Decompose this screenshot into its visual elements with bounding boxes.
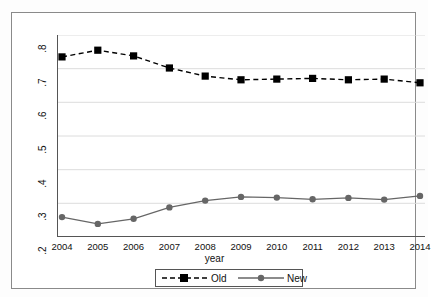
legend-item-new[interactable]: New [238,270,307,286]
y-tick-label: .6 [37,101,48,131]
data-point-old [381,76,388,83]
legend-swatch-old-icon [162,271,208,285]
y-tick-label: .3 [37,202,48,232]
data-point-old [345,76,352,83]
data-point-new [202,197,208,203]
plot-canvas [57,35,425,237]
data-point-old [166,64,173,71]
data-point-new [95,221,101,227]
data-point-new [166,204,172,210]
x-tick-label: 2008 [185,241,225,252]
x-axis-title: year [12,253,417,264]
legend-item-old[interactable]: Old [162,270,227,286]
x-tick-label: 2009 [221,241,261,252]
legend-label-old: Old [211,273,227,284]
data-point-old [416,79,423,86]
legend-label-new: New [287,273,307,284]
data-point-old [237,76,244,83]
data-point-old [94,47,101,54]
data-point-new [345,195,351,201]
x-tick-label: 2012 [328,241,368,252]
data-point-new [381,196,387,202]
x-tick-label: 2014 [400,241,435,252]
data-point-old [273,76,280,83]
x-tick-label: 2013 [364,241,404,252]
chart-legend: Old New [155,269,303,287]
data-point-old [309,75,316,82]
y-tick-label: .7 [37,67,48,97]
data-point-new [274,194,280,200]
x-tick-label: 2011 [293,241,333,252]
y-tick-label: .4 [37,168,48,198]
gridlines-group [58,35,425,237]
data-point-old [202,73,209,80]
x-tick-label: 2010 [257,241,297,252]
figure-frame: .2.3.4.5.6.7.8 2004200520062007200820092… [11,12,416,289]
legend-swatch-new-icon [238,271,284,285]
data-series-group [58,47,423,228]
data-point-new [309,196,315,202]
data-point-old [130,52,137,59]
y-tick-label: .8 [37,34,48,64]
x-tick-label: 2006 [114,241,154,252]
plot-area [57,35,425,237]
data-point-new [417,193,423,199]
data-point-new [130,216,136,222]
y-tick-label: .5 [37,135,48,165]
x-tick-label: 2005 [78,241,118,252]
data-point-old [58,53,65,60]
x-tick-label: 2004 [42,241,82,252]
x-tick-label: 2007 [149,241,189,252]
data-point-new [59,214,65,220]
data-point-new [238,194,244,200]
